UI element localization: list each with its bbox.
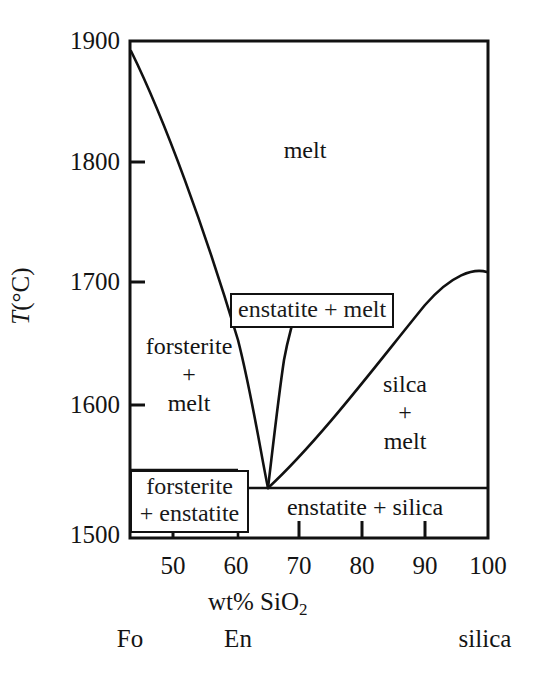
field-label-silica-melt: silca + melt (350, 370, 460, 455)
y-tick-label-1800: 1800 (20, 148, 120, 175)
field-label-silica-melt-line2: + (350, 398, 460, 426)
axis-frame (130, 41, 488, 538)
x-tick-label-60: 60 (206, 552, 266, 579)
field-label-melt: melt (255, 138, 355, 164)
x-tick-label-90: 90 (395, 552, 455, 579)
field-label-forsterite-melt-line2: + (133, 360, 245, 388)
y-axis-title-units: (°C) (7, 267, 34, 310)
y-tick-label-1900: 1900 (20, 27, 120, 54)
endmember-label-en: En (208, 625, 268, 652)
endmember-label-fo: Fo (100, 625, 160, 652)
field-label-forsterite-melt-line3: melt (133, 389, 245, 417)
field-label-silica-melt-line1: silca (350, 370, 460, 398)
field-label-forsterite-melt-line1: forsterite (133, 332, 245, 360)
x-axis-title-main: wt% SiO (208, 588, 299, 615)
x-axis-title: wt% SiO2 (208, 588, 307, 619)
y-tick-label-1600: 1600 (20, 391, 120, 418)
field-label-enstatite-melt: enstatite + melt (230, 293, 394, 328)
y-tick-label-1700: 1700 (20, 268, 120, 295)
x-axis-title-subscript: 2 (299, 600, 308, 619)
y-axis-title-symbol: T (7, 311, 34, 325)
field-label-silica-melt-line3: melt (350, 427, 460, 455)
x-tick-label-100: 100 (453, 552, 523, 579)
field-label-forsterite-melt: forsterite + melt (133, 332, 245, 417)
y-tick-label-1500: 1500 (20, 521, 120, 548)
x-tick-label-50: 50 (143, 552, 203, 579)
enstatite-liquidus-curve (268, 325, 292, 488)
field-label-enstatite-silica: enstatite + silica (255, 495, 475, 521)
y-axis-title: T(°C) (7, 246, 35, 346)
x-tick-label-80: 80 (332, 552, 392, 579)
forsterite-liquidus-curve (131, 51, 268, 488)
endmember-label-silica: silica (440, 625, 530, 652)
phase-diagram-figure: 1900 1800 1700 1600 1500 T(°C) 50 60 70 … (0, 0, 541, 676)
field-label-forsterite-enstatite-line2: + enstatite (138, 500, 241, 527)
field-label-forsterite-enstatite-line1: forsterite (138, 473, 241, 500)
x-tick-label-70: 70 (269, 552, 329, 579)
field-label-forsterite-enstatite: forsterite + enstatite (130, 470, 249, 533)
